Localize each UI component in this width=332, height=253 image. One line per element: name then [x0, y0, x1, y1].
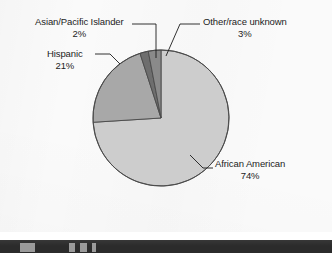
slice-label-asian-name: Asian/Pacific Islander: [35, 16, 124, 27]
figure-caption-bar: [0, 240, 332, 253]
slice-label-hispanic: Hispanic 21%: [47, 48, 83, 71]
figure-footer-gap: [0, 232, 332, 240]
slice-label-african-percent: 74%: [215, 170, 285, 182]
slice-label-hispanic-name: Hispanic: [47, 48, 83, 59]
pie-slices: [93, 50, 229, 186]
figure-screenshot: Asian/Pacific Islander 2% Hispanic 21% O…: [0, 0, 332, 253]
slice-label-other-percent: 3%: [203, 28, 287, 40]
slice-label-asian-percent: 2%: [35, 28, 124, 40]
leader-line-hispanic: [95, 54, 120, 64]
pie-chart: Asian/Pacific Islander 2% Hispanic 21% O…: [0, 0, 332, 232]
slice-label-african-american: African American 74%: [215, 158, 285, 181]
slice-label-asian-pacific-islander: Asian/Pacific Islander 2%: [35, 16, 124, 39]
caption-bar-sheen: [0, 240, 332, 253]
slice-label-other-name: Other/race unknown: [203, 16, 287, 27]
slice-label-hispanic-percent: 21%: [47, 60, 83, 72]
slice-label-african-name: African American: [215, 158, 285, 169]
slice-label-other-race-unknown: Other/race unknown 3%: [203, 16, 287, 39]
